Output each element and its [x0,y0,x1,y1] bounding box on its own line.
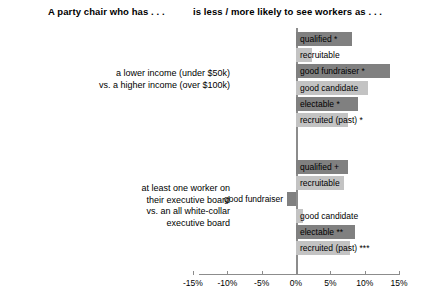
bar-label: recruited (past) * [296,113,363,127]
bar-label: qualified * [296,32,337,46]
group-description-exec-board: at least one worker on their executive b… [141,183,230,229]
x-axis-tick [399,271,400,275]
x-axis-tick-label: -10% [217,278,237,288]
x-axis-tick-label: 10% [356,278,373,288]
x-axis-tick [193,271,194,275]
x-axis-tick [227,271,228,275]
bar-row: recruitable [0,48,426,62]
bar-label: good fundraiser [224,192,287,206]
x-axis-tick-label: -15% [183,278,203,288]
x-axis-tick-label: 0% [290,278,302,288]
bar-row: recruited (past) * [0,113,426,127]
x-axis-line [199,274,399,275]
bar-row: recruited (past) *** [0,241,426,255]
column-header-right: is less / more likely to see workers as … [193,6,382,17]
bar-label: good candidate [296,81,358,95]
bar-label: electable ** [296,225,343,239]
bar-label: good candidate [296,209,358,223]
bar-row: electable * [0,97,426,111]
x-axis-tick [330,271,331,275]
x-axis-tick [365,271,366,275]
bar [287,192,296,206]
x-axis-tick [296,268,297,275]
bar-label: recruited (past) *** [296,241,369,255]
column-header-left: A party chair who has . . . [48,6,165,17]
x-axis-tick-label: 15% [391,278,408,288]
x-axis: -15%-10%-5%0%5%10%15% [0,274,426,304]
bar-chart: A party chair who has . . . is less / mo… [0,0,426,304]
bar-row: qualified + [0,160,426,174]
bar-label: electable * [296,97,340,111]
x-axis-tick-label: 5% [324,278,336,288]
bar-label: qualified + [296,160,339,174]
bar-label: recruitable [296,176,340,190]
bar-label: good fundraiser * [296,64,365,78]
bar-label: recruitable [296,48,340,62]
group-description-income: a lower income (under $50k) vs. a higher… [99,68,230,91]
plot-area: qualified *recruitablegood fundraiser *g… [0,26,426,274]
bar-row: qualified * [0,32,426,46]
x-axis-tick-label: -5% [254,278,269,288]
x-axis-tick [262,271,263,275]
